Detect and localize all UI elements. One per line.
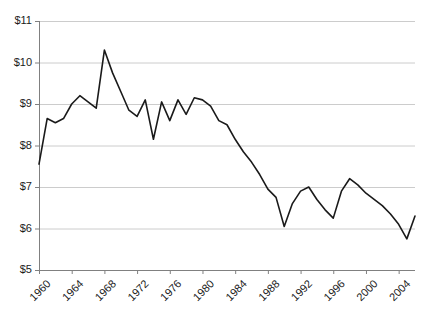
y-axis-tick-label: $5 [20, 264, 32, 275]
chart-canvas [0, 0, 424, 317]
y-axis-tick-label: $11 [14, 15, 32, 26]
data-line-series [39, 50, 415, 239]
y-axis-tick-label: $8 [20, 140, 32, 151]
y-axis-tick-label: $10 [14, 57, 32, 68]
y-axis-tick-label: $9 [20, 98, 32, 109]
y-axis-tick-label: $7 [20, 181, 32, 192]
y-axis-ticks [35, 22, 39, 271]
line-chart: $11$10$9$8$7$6$5196019641968197219761980… [0, 0, 424, 317]
y-axis-tick-label: $6 [20, 223, 32, 234]
